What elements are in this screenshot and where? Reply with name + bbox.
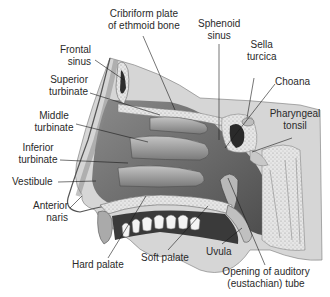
label-anterior-naris: Anterior naris	[28, 200, 68, 224]
label-line: (eustachian) tube	[218, 278, 314, 290]
label-soft-palate: Soft palate	[141, 252, 189, 264]
label-line: Inferior	[16, 142, 60, 154]
label-line: Soft palate	[141, 252, 189, 264]
label-line: turbinate	[32, 122, 76, 134]
label-line: Anterior	[28, 200, 68, 212]
label-line: Vestibule	[12, 176, 53, 188]
label-choana: Choana	[275, 76, 310, 88]
label-line: Hard palate	[72, 259, 124, 271]
label-line: Sella	[247, 39, 276, 51]
label-line: turcica	[247, 51, 276, 63]
label-sphenoid-sinus: Sphenoid sinus	[198, 18, 240, 42]
label-line: Middle	[32, 110, 76, 122]
label-vestibule: Vestibule	[12, 176, 53, 188]
label-line: Superior	[42, 74, 88, 86]
label-line: Uvula	[206, 246, 232, 258]
label-line: Frontal	[57, 44, 91, 56]
label-line: sinus	[57, 56, 91, 68]
label-sella-turcica: Sella turcica	[247, 39, 276, 63]
label-hard-palate: Hard palate	[72, 259, 124, 271]
label-uvula: Uvula	[206, 246, 232, 258]
label-line: Choana	[275, 76, 310, 88]
nasal-cavity-diagram: Cribriform plate of ethmoid bone Sphenoi…	[0, 0, 330, 297]
label-pharyngeal-tonsil: Pharyngeal tonsil	[266, 108, 324, 132]
label-cribriform-plate: Cribriform plate of ethmoid bone	[108, 8, 180, 32]
label-line: naris	[28, 212, 68, 224]
label-line: Opening of auditory	[218, 266, 314, 278]
label-line: tonsil	[266, 120, 324, 132]
label-line: Pharyngeal	[266, 108, 324, 120]
label-superior-turbinate: Superior turbinate	[42, 74, 88, 98]
label-inferior-turbinate: Inferior turbinate	[16, 142, 60, 166]
label-line: of ethmoid bone	[108, 20, 180, 32]
label-line: Sphenoid	[198, 18, 240, 30]
label-frontal-sinus: Frontal sinus	[57, 44, 91, 68]
label-middle-turbinate: Middle turbinate	[32, 110, 76, 134]
label-line: Cribriform plate	[108, 8, 180, 20]
label-line: turbinate	[42, 86, 88, 98]
label-line: turbinate	[16, 154, 60, 166]
label-line: sinus	[198, 30, 240, 42]
label-auditory-tube-opening: Opening of auditory (eustachian) tube	[218, 266, 314, 290]
